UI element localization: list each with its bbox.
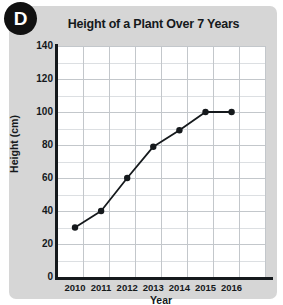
gridline-vertical (265, 46, 266, 277)
question-label-badge: D (4, 2, 37, 35)
gridline-vertical (187, 46, 188, 277)
y-axis-tick-label: 80 (23, 139, 53, 150)
y-axis-tick-label: 140 (23, 40, 53, 51)
x-axis-tick-label: 2016 (215, 282, 249, 293)
gridline-vertical (109, 46, 110, 277)
gridline-vertical (161, 46, 162, 277)
gridline-vertical (83, 46, 84, 277)
chart-title: Height of a Plant Over 7 Years (36, 17, 271, 31)
gridline-vertical (213, 46, 214, 277)
y-axis-tick-label: 120 (23, 73, 53, 84)
y-axis-tick-labels: 020406080100120140 (17, 0, 53, 305)
plot-area (57, 46, 265, 277)
x-axis-label: Year (57, 294, 265, 305)
y-axis-tick-label: 20 (23, 238, 53, 249)
gridline-vertical (135, 46, 136, 277)
chart-card: D Height of a Plant Over 7 Years 0204060… (0, 0, 283, 305)
y-axis-tick-label: 40 (23, 205, 53, 216)
y-axis-line (55, 44, 58, 279)
gridline-vertical (239, 46, 240, 277)
y-axis-tick-label: 60 (23, 172, 53, 183)
y-axis-label: Height (cm) (8, 94, 20, 194)
x-axis-line (55, 277, 273, 280)
y-axis-tick-label: 0 (23, 271, 53, 282)
y-axis-tick-label: 100 (23, 106, 53, 117)
